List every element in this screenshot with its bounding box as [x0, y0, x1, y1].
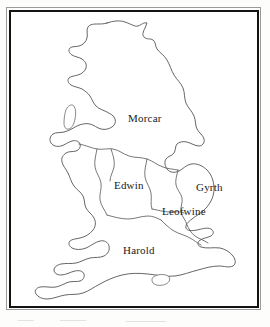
- map-figure: Morcar Edwin Gyrth Leofwine Harold: [0, 0, 270, 327]
- scan-artifact: [18, 320, 34, 321]
- map-label-harold: Harold: [123, 245, 155, 256]
- scan-artifact: [60, 320, 86, 321]
- scan-artifact: [126, 321, 166, 322]
- map-label-edwin: Edwin: [114, 180, 144, 191]
- map-label-gyrth: Gyrth: [196, 182, 223, 193]
- map-drawing: [11, 12, 257, 306]
- coastline-mainland: [35, 21, 235, 299]
- map-label-leofwine: Leofwine: [162, 206, 206, 217]
- isle-of-man: [64, 105, 76, 129]
- isle-of-wight: [152, 275, 170, 286]
- map-label-morcar: Morcar: [128, 113, 162, 124]
- map-canvas: Morcar Edwin Gyrth Leofwine Harold: [11, 12, 257, 306]
